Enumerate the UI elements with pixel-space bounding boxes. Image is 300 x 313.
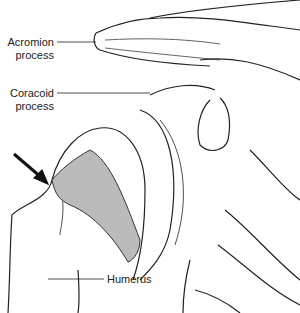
- coracoid-process-label: Coracoid process: [4, 87, 54, 113]
- coracoid-label-line2: process: [4, 100, 54, 113]
- acromion-process-label: Acromion process: [4, 36, 54, 62]
- humerus-label: Humerus: [107, 273, 152, 286]
- coracoid-label-line1: Coracoid: [4, 87, 54, 100]
- acromion-label-line1: Acromion: [4, 36, 54, 49]
- shoulder-diagram: Acromion process Coracoid process Humeru…: [0, 0, 300, 313]
- acromion-label-line2: process: [4, 49, 54, 62]
